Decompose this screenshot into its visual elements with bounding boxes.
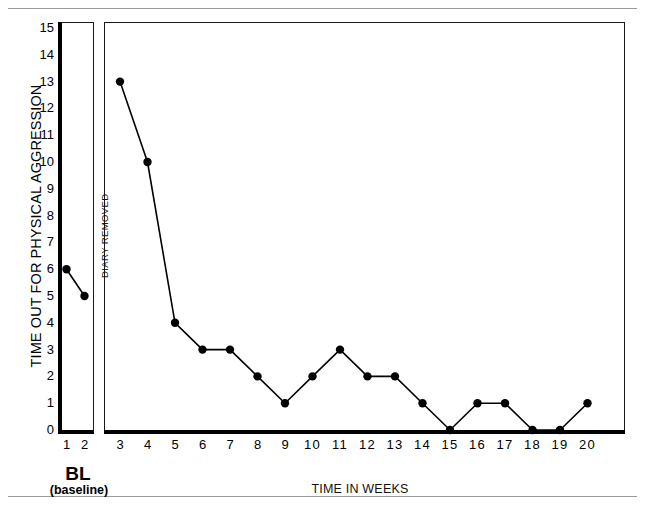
x-tick-label: 17: [497, 438, 514, 451]
data-point-marker: [226, 345, 234, 353]
x-tick-label: 5: [171, 438, 178, 451]
data-point-marker: [253, 372, 261, 380]
data-point-marker: [198, 345, 206, 353]
x-axis-title: TIME IN WEEKS: [260, 482, 460, 496]
baseline-data-line: [67, 269, 85, 296]
x-tick-label: 20: [579, 438, 596, 451]
data-point-marker: [528, 426, 536, 434]
baseline-phase-subtitle: (baseline): [34, 483, 124, 497]
data-point-marker: [363, 372, 371, 380]
x-tick-label: 12: [359, 438, 376, 451]
x-tick-label: 16: [469, 438, 486, 451]
x-tick-label: 7: [226, 438, 233, 451]
x-tick-label: 6: [199, 438, 206, 451]
x-tick-label: 19: [552, 438, 569, 451]
treatment-data-line: [120, 82, 588, 430]
single-case-line-graph: TIME OUT FOR PHYSICAL AGGRESSION 0123456…: [0, 0, 645, 511]
data-point-marker: [62, 265, 70, 273]
data-point-marker: [418, 399, 426, 407]
x-tick-label: 13: [387, 438, 404, 451]
x-tick-label: 18: [524, 438, 541, 451]
data-point-marker: [171, 319, 179, 327]
x-tick-label: 10: [304, 438, 321, 451]
data-point-marker: [143, 158, 151, 166]
x-tick-label: 4: [144, 438, 151, 451]
data-point-marker: [391, 372, 399, 380]
data-point-marker: [583, 399, 591, 407]
data-point-marker: [336, 345, 344, 353]
data-point-marker: [281, 399, 289, 407]
data-series-plot: [0, 0, 645, 511]
data-point-marker: [473, 399, 481, 407]
x-tick-label: 11: [332, 438, 348, 451]
x-tick-label: 14: [414, 438, 431, 451]
data-point-marker: [80, 292, 88, 300]
data-point-marker: [556, 426, 564, 434]
baseline-phase-title: BL: [40, 463, 116, 485]
data-point-marker: [308, 372, 316, 380]
x-tick-label: 15: [442, 438, 459, 451]
data-point-marker: [501, 399, 509, 407]
data-point-marker: [446, 426, 454, 434]
x-tick-label: 1: [63, 438, 70, 451]
x-tick-label: 9: [281, 438, 288, 451]
x-tick-label: 8: [254, 438, 261, 451]
x-tick-label: 3: [116, 438, 123, 451]
treatment-data-markers: [116, 77, 592, 434]
x-tick-label: 2: [81, 438, 88, 451]
data-point-marker: [116, 77, 124, 85]
